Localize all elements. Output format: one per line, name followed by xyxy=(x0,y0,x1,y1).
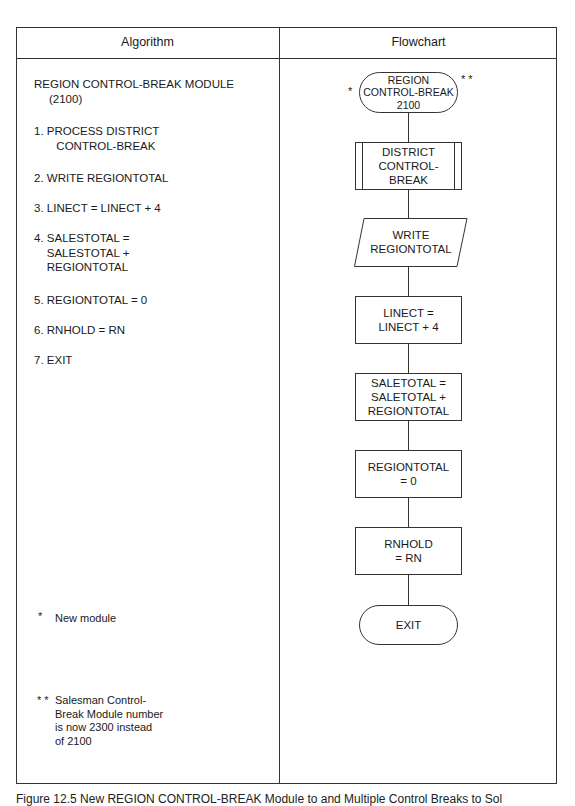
start-terminal-region-control-break: REGION CONTROL-BREAK 2100 xyxy=(359,72,458,113)
process-regiontotal-reset: REGIONTOTAL = 0 xyxy=(355,450,462,498)
process-saletotal: SALETOTAL = SALETOTAL + REGIONTOTAL xyxy=(355,373,462,421)
algorithm-step-6: 6. RNHOLD = RN xyxy=(34,323,125,338)
algorithm-title-number: (2100) xyxy=(49,92,82,107)
connector-line xyxy=(408,189,409,218)
predefined-process-district-control-break: DISTRICT CONTROL- BREAK xyxy=(355,142,462,190)
column-divider xyxy=(279,27,280,784)
start-marker-left: * xyxy=(348,85,352,99)
figure-caption: Figure 12.5 New REGION CONTROL-BREAK Mod… xyxy=(16,792,502,806)
note-new-module: New module xyxy=(55,612,116,626)
note-marker-double: * * xyxy=(37,694,49,708)
start-marker-right: * * xyxy=(461,73,473,87)
node-label: DISTRICT CONTROL- BREAK xyxy=(378,145,438,187)
algorithm-step-7: 7. EXIT xyxy=(34,353,72,368)
end-terminal-exit: EXIT xyxy=(359,605,458,645)
algorithm-title: REGION CONTROL-BREAK MODULE xyxy=(34,77,234,92)
note-salesman-module: Salesman Control- Break Module number is… xyxy=(55,694,163,748)
algorithm-step-5: 5. REGIONTOTAL = 0 xyxy=(34,293,147,308)
connector-line xyxy=(408,420,409,450)
header-flowchart: Flowchart xyxy=(280,27,557,58)
process-rnhold: RNHOLD = RN xyxy=(355,527,462,575)
algorithm-step-2: 2. WRITE REGIONTOTAL xyxy=(34,171,168,186)
connector-line xyxy=(408,497,409,527)
header-divider xyxy=(16,58,557,59)
header-algorithm: Algorithm xyxy=(16,27,279,58)
connector-line xyxy=(408,343,409,373)
connector-line xyxy=(408,266,409,296)
algorithm-step-3: 3. LINECT = LINECT + 4 xyxy=(34,201,161,216)
connector-line xyxy=(408,574,409,605)
connector-line xyxy=(408,112,409,142)
process-linect: LINECT = LINECT + 4 xyxy=(355,296,462,344)
note-marker-single: * xyxy=(38,610,42,624)
algorithm-step-1: 1. PROCESS DISTRICT CONTROL-BREAK xyxy=(34,124,159,153)
algorithm-step-4: 4. SALESTOTAL = SALESTOTAL + REGIONTOTAL xyxy=(34,231,129,275)
io-write-regiontotal: WRITE REGIONTOTAL xyxy=(355,218,467,266)
